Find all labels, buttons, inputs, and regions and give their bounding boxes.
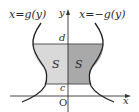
right-region-s xyxy=(68,44,103,84)
y-axis-label: y xyxy=(59,8,65,18)
right-region-label: S xyxy=(75,59,83,70)
right-curve-label: x=−g(y) xyxy=(79,9,125,20)
lower-bound-label-c: c xyxy=(60,84,65,93)
left-curve-label: x=g(y) xyxy=(9,9,46,20)
area-diagram: x=g(y) x=−g(y) y x O d c S S xyxy=(0,0,139,112)
upper-bound-label-d: d xyxy=(59,33,65,43)
left-region-label: S xyxy=(52,59,60,70)
y-axis-arrow-icon xyxy=(66,9,70,15)
left-region-s xyxy=(33,44,68,84)
x-axis-label: x xyxy=(123,96,129,106)
origin-label: O xyxy=(59,98,67,108)
